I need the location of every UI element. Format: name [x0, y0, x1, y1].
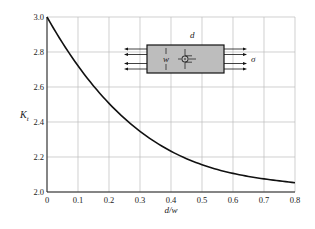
- grid-lines: [47, 17, 295, 192]
- y-tick-label: 2.4: [33, 117, 44, 127]
- d-label: d: [190, 30, 195, 40]
- x-tick-label: 0.5: [197, 195, 208, 205]
- y-tick-label: 2.6: [33, 82, 44, 92]
- x-tick-label: 0.1: [73, 195, 84, 205]
- y-axis-label: Kt: [19, 109, 30, 123]
- y-tick-label: 2.8: [33, 47, 44, 57]
- tick-labels: 00.10.20.30.40.50.60.70.82.02.22.42.62.8…: [33, 12, 300, 205]
- y-tick-label: 3.0: [33, 12, 44, 22]
- stress-concentration-chart: 00.10.20.30.40.50.60.70.82.02.22.42.62.8…: [0, 0, 315, 229]
- x-tick-label: 0.7: [259, 195, 270, 205]
- x-axis-label: d/w: [164, 205, 177, 215]
- x-tick-label: 0.4: [166, 195, 177, 205]
- x-tick-label: 0.2: [104, 195, 115, 205]
- x-tick-label: 0.3: [135, 195, 146, 205]
- plate-inset-diagram: w d σ: [124, 30, 256, 73]
- sigma-label: σ: [251, 54, 256, 64]
- w-label: w: [163, 54, 169, 64]
- x-tick-label: 0.8: [290, 195, 301, 205]
- y-tick-label: 2.2: [33, 152, 44, 162]
- x-tick-label: 0: [45, 195, 49, 205]
- x-tick-label: 0.6: [228, 195, 239, 205]
- y-tick-label: 2.0: [33, 187, 44, 197]
